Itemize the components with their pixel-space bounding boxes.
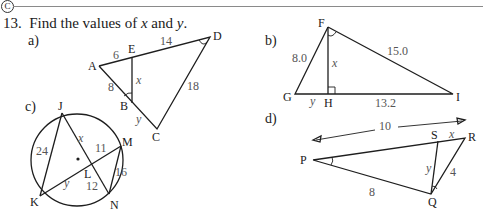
measure-ae: 6 <box>113 49 119 61</box>
point-m: M <box>122 136 133 148</box>
dimension-line-left <box>316 130 375 140</box>
right-angle-mark-h <box>328 87 335 94</box>
measure-fg: 8.0 <box>292 52 307 64</box>
point-g: G <box>283 91 292 103</box>
measure-qr: 4 <box>450 166 456 178</box>
figure-c-circle <box>31 113 123 206</box>
point-j: J <box>58 100 63 112</box>
point-n: N <box>110 199 119 211</box>
measure-lm: 11 <box>95 142 107 154</box>
point-h: H <box>324 97 333 109</box>
point-e: E <box>128 43 135 55</box>
var-x-d: x <box>449 128 454 140</box>
circle-center-dot <box>76 157 79 160</box>
right-angle-mark-f <box>328 32 336 36</box>
point-d: D <box>213 30 222 42</box>
measure-ln: 12 <box>86 180 98 192</box>
part-d-label: d) <box>265 112 277 126</box>
point-k: K <box>30 196 39 208</box>
measure-ed: 14 <box>160 35 172 47</box>
part-a-label: a) <box>28 34 39 48</box>
figure-b-triangle <box>295 27 453 94</box>
point-f: F <box>318 17 325 29</box>
measure-mn: 16 <box>115 166 127 178</box>
point-b: B <box>120 100 128 112</box>
angle-mark-p <box>331 157 333 165</box>
measure-pq: 8 <box>369 186 375 198</box>
angle-mark-d <box>199 40 207 44</box>
var-y-c: y <box>64 177 69 189</box>
measure-dc: 18 <box>187 80 199 92</box>
point-p: P <box>300 154 307 166</box>
measure-hi: 13.2 <box>375 97 396 109</box>
geometry-figures <box>0 0 483 218</box>
measure-pr: 10 <box>379 120 391 132</box>
part-b-label: b) <box>265 34 277 48</box>
var-x-a: x <box>136 74 141 86</box>
point-a: A <box>88 60 97 72</box>
var-y-d: y <box>426 162 431 174</box>
point-q: Q <box>428 196 437 208</box>
measure-jk: 24 <box>36 145 48 157</box>
point-s: S <box>431 129 438 141</box>
var-x-b: x <box>332 57 337 69</box>
point-r: R <box>468 131 476 143</box>
part-c-label: c) <box>25 100 36 114</box>
angle-mark-b <box>124 93 132 96</box>
var-x-c: x <box>78 132 83 144</box>
measure-ab: 8 <box>108 81 114 93</box>
var-y-b: y <box>310 95 315 107</box>
point-i: I <box>456 91 460 103</box>
var-y-a: y <box>136 113 141 125</box>
point-c: C <box>152 131 160 143</box>
measure-fi: 15.0 <box>387 45 408 57</box>
